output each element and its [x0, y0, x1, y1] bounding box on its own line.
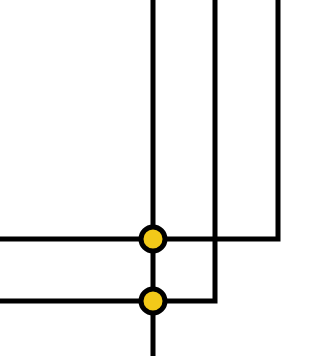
- wire-v3-h1: [0, 0, 278, 239]
- junction-dot-j1: [141, 227, 165, 251]
- wire-diagram: [0, 0, 321, 356]
- wire-v2-h2: [0, 0, 215, 301]
- diagram-canvas: [0, 0, 321, 356]
- junction-dot-j2: [141, 289, 165, 313]
